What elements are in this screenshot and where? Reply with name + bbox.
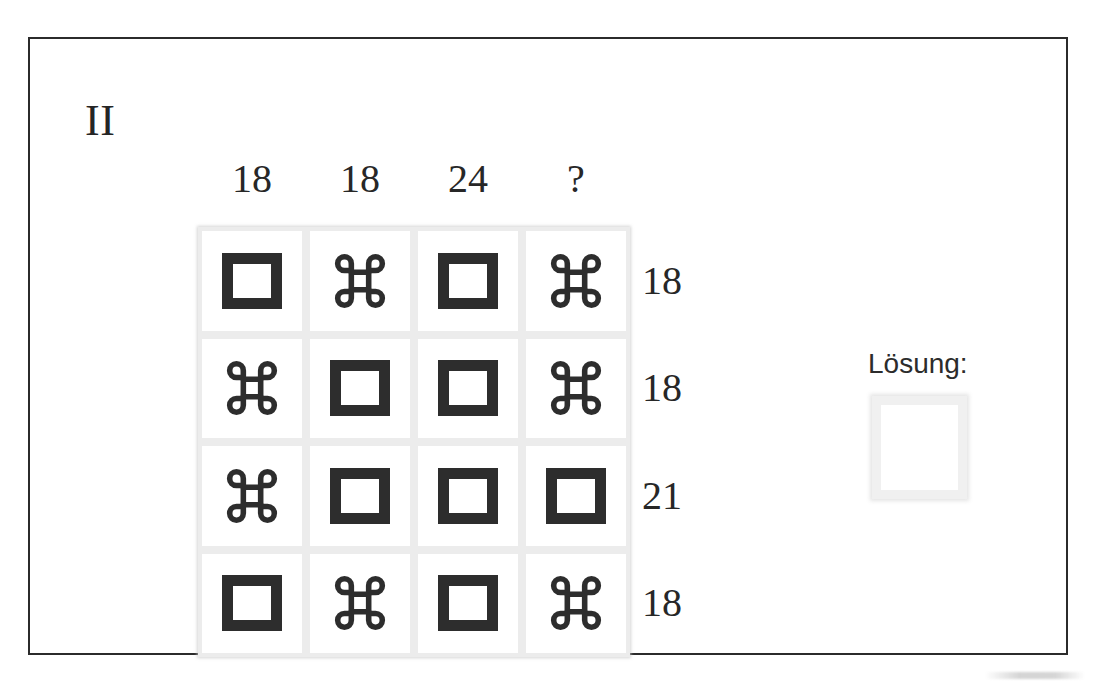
square-symbol-icon bbox=[222, 575, 282, 631]
column-sum-2: 18 bbox=[306, 159, 414, 199]
row-sum-4: 18 bbox=[642, 550, 682, 658]
exercise-number: II bbox=[85, 99, 115, 143]
scan-artifact bbox=[985, 672, 1085, 679]
square-symbol-icon bbox=[438, 360, 498, 416]
grid-cell-r1c1 bbox=[198, 227, 306, 335]
grid-cell-r3c1 bbox=[198, 442, 306, 550]
row-sum-3: 21 bbox=[642, 442, 682, 550]
answer-panel: Lösung: bbox=[866, 349, 1036, 499]
square-symbol-icon bbox=[222, 253, 282, 309]
grid-cell-r4c3 bbox=[414, 550, 522, 658]
column-sum-header-row: 18 18 24 ? bbox=[198, 159, 630, 199]
command-symbol-icon bbox=[545, 572, 607, 634]
grid-cell-r1c2 bbox=[306, 227, 414, 335]
grid-cell-r4c4 bbox=[522, 550, 630, 658]
command-symbol-icon bbox=[545, 357, 607, 419]
square-symbol-icon bbox=[546, 468, 606, 524]
column-sum-4-unknown: ? bbox=[522, 159, 630, 199]
command-symbol-icon bbox=[221, 357, 283, 419]
command-symbol-icon bbox=[221, 465, 283, 527]
grid-cell-r3c4 bbox=[522, 442, 630, 550]
grid-cell-r3c2 bbox=[306, 442, 414, 550]
row-sum-2: 18 bbox=[642, 335, 682, 443]
answer-input-box[interactable] bbox=[872, 396, 967, 499]
grid-cell-r4c1 bbox=[198, 550, 306, 658]
grid-cell-r4c2 bbox=[306, 550, 414, 658]
row-sum-1: 18 bbox=[642, 227, 682, 335]
grid-cell-r1c4 bbox=[522, 227, 630, 335]
command-symbol-icon bbox=[329, 572, 391, 634]
symbol-grid bbox=[198, 227, 630, 657]
exercise-frame: II 18 18 24 ? 18 18 21 18 Lösung: bbox=[28, 37, 1068, 655]
square-symbol-icon bbox=[438, 575, 498, 631]
grid-cell-r1c3 bbox=[414, 227, 522, 335]
row-sum-column: 18 18 21 18 bbox=[642, 227, 682, 657]
square-symbol-icon bbox=[438, 468, 498, 524]
grid-cell-r3c3 bbox=[414, 442, 522, 550]
grid-cell-r2c2 bbox=[306, 335, 414, 443]
grid-cell-r2c4 bbox=[522, 335, 630, 443]
grid-cell-r2c1 bbox=[198, 335, 306, 443]
square-symbol-icon bbox=[330, 360, 390, 416]
column-sum-1: 18 bbox=[198, 159, 306, 199]
column-sum-3: 24 bbox=[414, 159, 522, 199]
square-symbol-icon bbox=[438, 253, 498, 309]
grid-cell-r2c3 bbox=[414, 335, 522, 443]
command-symbol-icon bbox=[545, 250, 607, 312]
command-symbol-icon bbox=[329, 250, 391, 312]
square-symbol-icon bbox=[330, 468, 390, 524]
answer-label: Lösung: bbox=[868, 349, 1036, 380]
